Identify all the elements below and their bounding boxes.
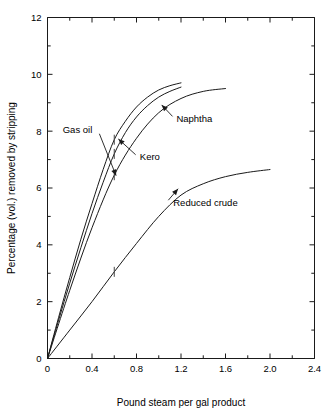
x-tick-label: 0.8 xyxy=(130,363,143,374)
x-tick-label: 0.4 xyxy=(85,363,98,374)
y-axis-tick-labels: 024681012 xyxy=(31,12,42,364)
x-tick-label: 2.4 xyxy=(308,363,321,374)
y-tick-label: 10 xyxy=(31,69,42,80)
chart-figure: 00.40.81.21.62.02.4 024681012 Gas oilKer… xyxy=(0,0,336,418)
x-axis-tick-labels: 00.40.81.21.62.02.4 xyxy=(45,363,321,374)
x-tick-label: 0 xyxy=(45,363,50,374)
x-tick-label: 2.0 xyxy=(263,363,276,374)
stripping-curves-chart: 00.40.81.21.62.02.4 024681012 Gas oilKer… xyxy=(0,0,336,418)
x-tick-label: 1.6 xyxy=(219,363,232,374)
y-tick-label: 2 xyxy=(36,296,41,307)
series-label-naphtha: Naphtha xyxy=(176,113,213,124)
y-tick-label: 0 xyxy=(36,353,41,364)
y-tick-label: 8 xyxy=(36,126,41,137)
series-label-gas-oil: Gas oil xyxy=(63,124,93,135)
series-label-reduced-crude: Reduced crude xyxy=(173,197,237,208)
y-tick-label: 6 xyxy=(36,182,41,193)
x-axis-title: Pound steam per gal product xyxy=(117,397,246,408)
curve-annotations: Gas oilKeroNaphthaReduced crude xyxy=(63,105,238,208)
y-tick-label: 4 xyxy=(36,239,41,250)
y-tick-label: 12 xyxy=(31,12,42,23)
series-label-kero: Kero xyxy=(140,151,160,162)
y-axis-title: Percentage (vol.) removed by stripping xyxy=(6,102,17,274)
x-tick-label: 1.2 xyxy=(174,363,187,374)
